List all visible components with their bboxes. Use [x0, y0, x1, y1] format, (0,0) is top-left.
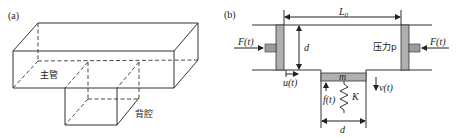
- v-label: v(t): [379, 82, 394, 94]
- mass-label: m: [339, 71, 346, 82]
- back-cavity-box: [65, 62, 139, 125]
- figure: (a) 主管 背腔 (b): [0, 0, 457, 138]
- height-label: d: [304, 42, 310, 53]
- panel-a-label: (a): [8, 10, 19, 22]
- width-label: d: [340, 124, 346, 135]
- main-pipe-label: 主管: [40, 69, 58, 80]
- panel-b-label: (b): [224, 9, 236, 21]
- panel-a: (a) 主管 背腔: [8, 10, 198, 125]
- force-left-label: F(t): [237, 36, 254, 48]
- right-piston-rod: [409, 44, 420, 52]
- pressure-label: 压力p: [373, 41, 397, 52]
- force-right-label: F(t): [429, 36, 446, 48]
- left-piston-rod: [265, 44, 276, 52]
- right-piston: [401, 25, 409, 70]
- spring: [340, 81, 348, 113]
- spring-label: K: [351, 91, 360, 102]
- back-cavity-label: 背腔: [135, 108, 153, 119]
- panel-b: (b) L0 F(t) F(t) d 压力p u(t) m: [224, 6, 449, 135]
- f-label: f(t): [323, 94, 336, 106]
- left-piston: [276, 25, 284, 70]
- u-label: u(t): [283, 77, 298, 89]
